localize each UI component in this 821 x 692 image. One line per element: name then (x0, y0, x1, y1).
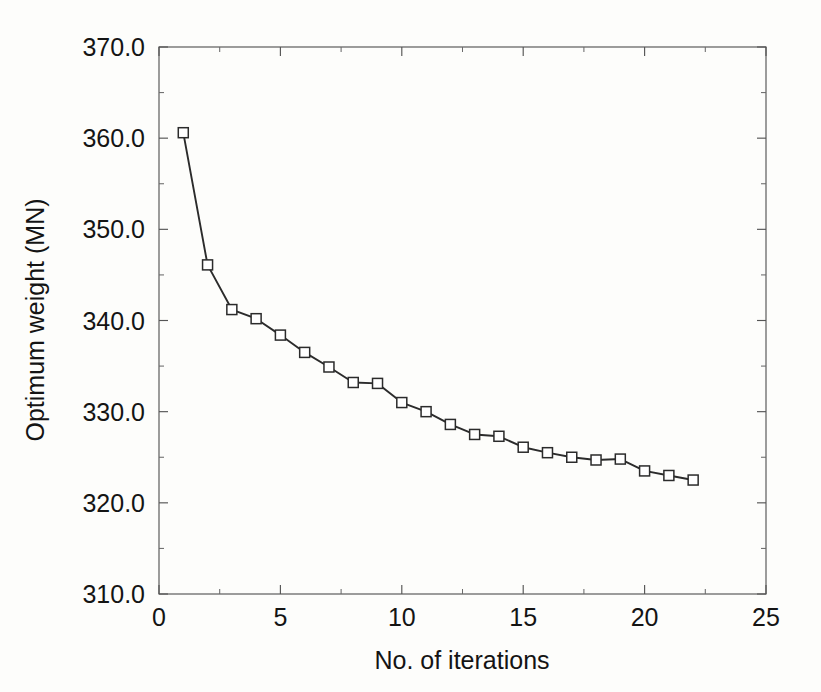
chart-page: 310.0320.0330.0340.0350.0360.0370.005101… (0, 0, 821, 692)
y-tick-label: 310.0 (82, 580, 145, 608)
data-point-marker (615, 454, 625, 464)
y-axis-title: Optimum weight (MN) (21, 198, 49, 441)
y-tick-label: 370.0 (82, 33, 145, 61)
data-point-marker (445, 419, 455, 429)
data-point-marker (178, 128, 188, 138)
y-tick-label: 330.0 (82, 398, 145, 426)
x-tick-label: 20 (631, 603, 659, 631)
y-tick-label: 320.0 (82, 489, 145, 517)
plot-frame (159, 47, 766, 594)
data-point-marker (518, 442, 528, 452)
y-tick-label: 360.0 (82, 124, 145, 152)
data-point-marker (324, 362, 334, 372)
x-axis-title: No. of iterations (374, 646, 549, 674)
data-point-marker (494, 431, 504, 441)
data-point-marker (664, 470, 674, 480)
x-tick-label: 15 (509, 603, 537, 631)
data-point-marker (640, 466, 650, 476)
data-point-marker (470, 429, 480, 439)
data-point-marker (348, 377, 358, 387)
data-point-marker (373, 378, 383, 388)
data-point-marker (275, 330, 285, 340)
axis-ticks (159, 47, 766, 594)
data-point-marker (567, 452, 577, 462)
series-line (183, 133, 693, 480)
x-tick-label: 10 (388, 603, 416, 631)
line-chart: 310.0320.0330.0340.0350.0360.0370.005101… (0, 0, 821, 692)
data-series (183, 133, 693, 480)
data-point-marker (251, 314, 261, 324)
data-point-marker (421, 407, 431, 417)
data-point-marker (397, 398, 407, 408)
data-point-marker (688, 475, 698, 485)
data-markers (178, 128, 698, 485)
data-point-marker (227, 305, 237, 315)
y-tick-label: 340.0 (82, 307, 145, 335)
data-point-marker (300, 347, 310, 357)
data-point-marker (203, 260, 213, 270)
data-point-marker (591, 455, 601, 465)
axis-tick-labels: 310.0320.0330.0340.0350.0360.0370.005101… (82, 33, 779, 631)
data-point-marker (542, 448, 552, 458)
y-tick-label: 350.0 (82, 215, 145, 243)
x-tick-label: 25 (752, 603, 780, 631)
x-tick-label: 0 (152, 603, 166, 631)
x-tick-label: 5 (273, 603, 287, 631)
